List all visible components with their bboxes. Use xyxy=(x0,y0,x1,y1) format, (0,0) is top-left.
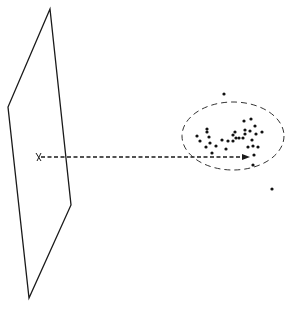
data-point xyxy=(243,128,246,131)
outlier-point xyxy=(251,163,254,166)
data-point xyxy=(248,129,251,132)
data-point xyxy=(234,136,237,139)
data-point xyxy=(198,139,201,142)
plane-shape xyxy=(8,9,71,298)
origin-x-marker xyxy=(36,153,41,161)
outlier-points xyxy=(222,92,273,190)
data-point xyxy=(242,119,245,122)
data-point xyxy=(204,145,207,148)
outlier-point xyxy=(270,187,273,190)
data-point xyxy=(252,153,255,156)
data-point xyxy=(243,132,246,135)
data-point xyxy=(195,134,198,137)
data-point xyxy=(214,144,217,147)
outlier-point xyxy=(222,92,225,95)
data-point xyxy=(224,147,227,150)
data-point xyxy=(254,132,257,135)
data-point xyxy=(210,151,213,154)
data-point xyxy=(205,130,208,133)
data-point xyxy=(205,127,208,130)
data-point xyxy=(231,133,234,136)
figure-caption xyxy=(0,309,291,315)
data-point xyxy=(241,136,244,139)
data-point xyxy=(251,144,254,147)
data-point xyxy=(249,117,252,120)
data-point xyxy=(253,124,256,127)
data-point xyxy=(208,141,211,144)
arrowhead-icon xyxy=(242,154,250,160)
data-point xyxy=(250,138,253,141)
data-point xyxy=(226,139,229,142)
data-point xyxy=(231,139,234,142)
data-point xyxy=(207,135,210,138)
cluster-points xyxy=(195,117,263,156)
data-point xyxy=(220,138,223,141)
projection-diagram xyxy=(0,0,291,315)
data-point xyxy=(256,145,259,148)
data-point xyxy=(260,130,263,133)
data-point xyxy=(246,145,249,148)
data-point xyxy=(233,130,236,133)
data-point xyxy=(237,136,240,139)
